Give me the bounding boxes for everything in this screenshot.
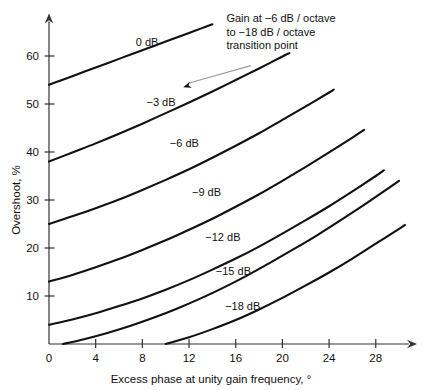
chart-annotations: Gain at −6 dB / octaveto −18 dB / octave…: [182, 12, 335, 90]
series-label-12db: −12 dB: [205, 231, 240, 243]
annotation-text-line: Gain at −6 dB / octave: [226, 12, 335, 24]
series-label-6db: −6 dB: [170, 137, 199, 149]
chart-figure: 0 dB−3 dB−6 dB−9 dB−12 dB−15 dB−18 dB 10…: [0, 0, 422, 390]
chart-plot-area: 0 dB−3 dB−6 dB−9 dB−12 dB−15 dB−18 dB 10…: [0, 0, 422, 390]
x-axis-title: Excess phase at unity gain frequency, °: [111, 373, 312, 385]
annotation-text-line: to −18 dB / octave: [226, 26, 315, 38]
series-curve-15db: [63, 181, 399, 344]
series-curve-6db: [49, 90, 334, 224]
y-axis-tick-label: 10: [26, 290, 39, 302]
x-axis-tick-label: 24: [323, 352, 336, 364]
annotation-text-line: transition point: [226, 39, 298, 51]
x-axis-tick-label: 0: [46, 352, 52, 364]
y-axis-title: Overshoot, %: [10, 165, 22, 235]
series-label-18db: −18 dB: [225, 300, 260, 312]
x-axis-tick-label: 12: [183, 352, 196, 364]
series-label-9db: −9 dB: [192, 186, 221, 198]
annotation-leader-line: [188, 66, 251, 84]
series-label-15db: −15 dB: [216, 265, 251, 277]
y-axis-tick-label: 60: [26, 50, 39, 62]
series-label-0db: 0 dB: [136, 36, 159, 48]
y-axis-tick-label: 30: [26, 194, 39, 206]
x-axis-tick-label: 4: [92, 352, 99, 364]
series-label-3db: −3 dB: [147, 96, 176, 108]
x-axis-tick-label: 28: [369, 352, 382, 364]
x-axis-tick-label: 20: [276, 352, 289, 364]
y-axis-tick-label: 50: [26, 98, 39, 110]
chart-axes: [45, 14, 417, 349]
y-axis-tick-label: 40: [26, 146, 39, 158]
series-curve-0db: [49, 24, 212, 84]
series-curve-9db: [49, 130, 364, 282]
x-axis-tick-label: 8: [139, 352, 145, 364]
series-curve-18db: [166, 225, 405, 344]
x-axis-tick-label: 16: [229, 352, 242, 364]
y-axis-tick-label: 20: [26, 242, 39, 254]
